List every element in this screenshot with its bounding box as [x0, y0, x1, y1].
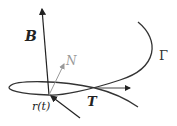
label-normal: N — [66, 54, 77, 68]
label-tangent: T — [87, 94, 97, 109]
label-curve: Γ — [159, 48, 168, 63]
normal-arrow — [49, 64, 64, 95]
label-binormal: B — [25, 28, 37, 44]
label-position: r(t) — [32, 100, 50, 113]
secant-line — [51, 96, 80, 118]
